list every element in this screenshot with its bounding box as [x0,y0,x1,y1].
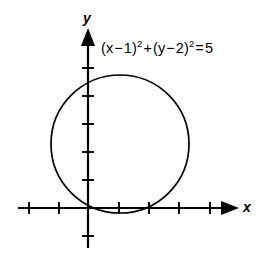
equation-equals: = [194,40,205,56]
equation-annotation: (x−1)2+(y−2)2=5 [101,41,213,56]
x-axis-label: x [243,200,251,214]
x-axis-arrowhead [221,201,239,215]
equation-one-close: 1) [124,40,137,56]
circle-curve [51,75,189,213]
equation-two-close: 2) [176,40,189,56]
equation-plus: + [142,40,153,56]
equation-lhs-x-term: (x [101,40,113,56]
equation-minus-2: − [165,40,176,56]
circle-graph-figure: (x−1)2+(y−2)2=5 y x [0,0,263,268]
equation-minus-1: − [113,40,124,56]
equation-lhs-y-term: (y [153,40,165,56]
equation-rhs: 5 [205,40,213,56]
y-axis-label: y [83,11,91,25]
y-axis-arrowhead [81,28,95,46]
